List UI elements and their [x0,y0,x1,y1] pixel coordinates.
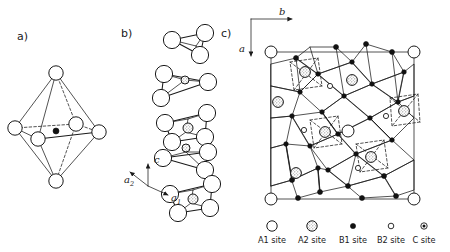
legend-label-c: C site [412,235,435,245]
panel-c-label: c) [221,27,231,40]
atom-a2-site [183,123,193,133]
axis-label-b: b [279,6,285,17]
legend-item-a2: A2 site [298,221,326,245]
atom-b1-site [390,138,395,143]
atom-a1-site [69,117,83,131]
legend-label-b2: B2 site [377,235,405,245]
atom-b1-site [364,42,369,47]
atom-b1-site [284,142,289,147]
atom-b1-site [308,144,313,149]
legend-item-b1: B1 site [339,223,367,245]
atom-b1-site [390,50,395,55]
atom-b1-site [396,100,401,105]
axis-label-a: a [239,43,245,54]
atom-b1-site [360,196,365,201]
atom-a1-site [196,24,213,41]
atom-b1-site [316,166,321,171]
atom-b1-site [290,114,295,119]
panel-b-label: b) [121,27,132,40]
axis-label-c: c [154,154,160,165]
atom-b1-site [346,184,351,189]
atom-a1-site [199,73,216,90]
atom-a1-site [191,46,208,63]
atom-b2-site [327,83,332,88]
atom-a1-site [408,46,420,58]
atom-b1-site [370,82,375,87]
atom-a1-site [49,174,63,188]
atom-b1-site [294,56,299,61]
atom-a1-site [92,125,106,139]
atom-b1-site [402,70,407,75]
legend-label-a1: A1 site [258,235,286,245]
atom-a2-site [399,106,410,117]
atom-a1-site [203,175,220,192]
panel-b-group: b) [121,24,221,221]
atom-b1-site [368,116,373,121]
atom-a1-site [265,46,277,58]
crystal-structure-figure: a) [0,0,450,252]
legend-swatch-b2-open-circle-icon [388,223,394,229]
atom-a1-site [8,121,22,135]
atom-a1-site [163,31,180,48]
atom-b1-site [382,174,387,179]
atom-b1-site [326,168,331,173]
atom-a2-site [320,127,331,138]
atom-a2-site [300,67,311,78]
atom-a2-site [273,97,284,108]
atom-b1-site [318,190,323,195]
atom-a1-site [408,193,420,205]
atom-b1-site [296,196,301,201]
panel-a-group: a) [8,30,106,188]
legend-swatch-b1-filled-circle-icon [350,223,355,228]
atom-b2-site [383,113,388,118]
cluster-unit [163,24,213,63]
atom-a1-site [163,133,180,150]
atom-a2-site [347,75,358,86]
legend-group: A1 site A2 site B1 site B2 site C s [258,221,436,245]
atom-a1-site [201,199,218,216]
panel-b-axis-triad: c a 2 a 1 [124,154,181,206]
atom-a1-site [169,204,186,221]
legend-swatch-a2-shaded-circle-icon [307,221,317,231]
legend-item-c: C site [412,223,435,245]
cluster-unit [154,143,216,178]
atom-b1-site [394,194,399,199]
atom-b2-site [301,127,306,132]
legend-item-b2: B2 site [377,223,405,245]
atom-a1-site [198,104,215,121]
atom-b1-site [342,94,347,99]
atom-b1-site [354,152,359,157]
atom-a2-site [182,144,190,152]
atom-a1-site [199,143,216,160]
atom-a1-site [31,132,45,146]
axis-label-a1-subscript: 1 [177,198,181,206]
atom-b1-site [336,132,341,137]
atom-a2-site [188,194,198,204]
legend-swatch-c-core-icon [423,225,426,228]
atom-b1-site [320,110,325,115]
atom-b1-site [316,72,321,77]
atom-b1-site-center [53,128,59,134]
atom-a2-site [366,152,377,163]
atom-a2-site [291,168,302,179]
atom-a1-site [155,65,172,82]
legend-label-a2: A2 site [298,235,326,245]
legend-swatch-a1-open-circle-icon [267,221,277,231]
panel-a-label: a) [17,30,28,43]
atom-b1-site [334,45,339,50]
panel-c-group: c) b a [221,6,420,205]
atom-b1-site [298,90,303,95]
atom-a1-site [196,128,213,145]
octahedron-edges [15,73,99,181]
atom-a1-site [156,114,173,131]
axis-label-a2-subscript: 2 [129,180,134,188]
framework-b1-sites [284,42,407,201]
legend-item-a1: A1 site [258,221,286,245]
atom-a2-site [181,76,189,84]
cluster-unit [152,65,216,106]
atom-b2-site [355,165,360,170]
legend-label-b1: B1 site [339,235,367,245]
atom-b1-site [350,60,355,65]
atom-a1-site [342,125,354,137]
octahedron-vertex-atoms [8,66,106,188]
